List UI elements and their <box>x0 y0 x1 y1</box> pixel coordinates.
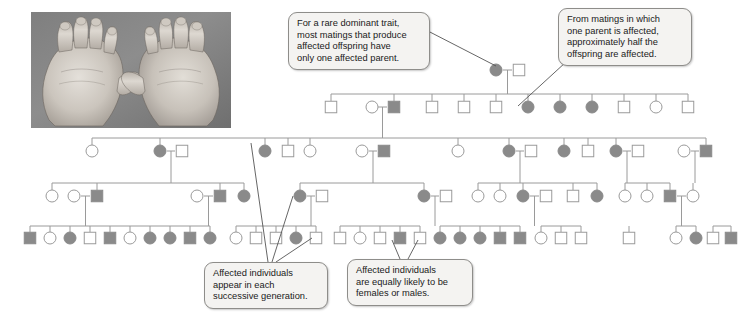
gen3-female-affected-1[interactable] <box>154 145 166 157</box>
gen2-female-spouse-1[interactable] <box>366 101 378 113</box>
gen5-male-unaffected-6[interactable] <box>374 232 386 244</box>
gen3-male-affected-2[interactable] <box>700 145 712 157</box>
callout-line: offspring are affected. <box>567 49 684 61</box>
gen5-female-affected-7[interactable] <box>454 232 466 244</box>
callout-line: females or males. <box>356 288 465 300</box>
gen3-male-spouse-1[interactable] <box>176 145 188 157</box>
gen1-male-unaffected[interactable] <box>513 64 525 76</box>
gen5-male-affected-4[interactable] <box>394 232 406 244</box>
gen3-male-spouse-3[interactable] <box>632 145 644 157</box>
gen5-male-unaffected-1[interactable] <box>84 232 96 244</box>
gen5-female-affected-9[interactable] <box>690 232 702 244</box>
callout-line: one parent is affected, <box>567 26 684 38</box>
gen3-female-affected-5[interactable] <box>610 145 622 157</box>
gen4-female-affected-4[interactable] <box>517 190 529 202</box>
gen5-male-unaffected-9[interactable] <box>575 232 587 244</box>
gen2-male-unaffected-3[interactable] <box>458 101 470 113</box>
gen3-female-unaffected-1[interactable] <box>86 145 98 157</box>
gen5-female-affected-6[interactable] <box>434 232 446 244</box>
gen2-male-unaffected-5[interactable] <box>618 101 630 113</box>
gen4-male-spouse-2[interactable] <box>440 190 452 202</box>
gen5-male-affected-7[interactable] <box>725 232 737 244</box>
gen5-male-affected-1[interactable] <box>24 232 36 244</box>
callout-line: successive generation. <box>213 291 320 303</box>
gen4-male-spouse-1[interactable] <box>316 190 328 202</box>
gen5-female-affected-4[interactable] <box>204 232 216 244</box>
callout-line: Affected individuals <box>356 265 465 277</box>
gen4-female-unaffected-5[interactable] <box>641 190 653 202</box>
leader-line <box>272 196 293 262</box>
gen2-male-affected-1[interactable] <box>388 101 400 113</box>
callout-line: appear in each <box>213 280 320 292</box>
gen4-female-affected-5[interactable] <box>591 190 603 202</box>
gen4-female-spouse-2[interactable] <box>191 190 203 202</box>
gen4-female-unaffected-4[interactable] <box>619 190 631 202</box>
leader-line <box>408 240 418 259</box>
gen3-female-unaffected-3[interactable] <box>452 145 464 157</box>
gen5-male-unaffected-5[interactable] <box>334 232 346 244</box>
gen5-male-unaffected-7[interactable] <box>414 232 426 244</box>
callout-line: most matings that produce <box>297 30 422 42</box>
gen2-female-affected-3[interactable] <box>586 101 598 113</box>
gen5-female-affected-5[interactable] <box>290 232 302 244</box>
gen4-female-unaffected-2[interactable] <box>472 190 484 202</box>
gen2-male-unaffected-6[interactable] <box>682 101 694 113</box>
callout-line: Affected individuals <box>213 268 320 280</box>
gen5-female-unaffected-3[interactable] <box>230 232 242 244</box>
callout-line: affected offspring have <box>297 41 422 53</box>
gen5-female-affected-2[interactable] <box>144 232 156 244</box>
gen4-male-unaffected-1[interactable] <box>567 190 579 202</box>
gen4-female-unaffected-6[interactable] <box>687 190 699 202</box>
gen4-female-affected-1[interactable] <box>238 190 250 202</box>
gen3-male-unaffected-1[interactable] <box>282 145 294 157</box>
gen4-female-unaffected-1[interactable] <box>46 190 58 202</box>
gen5-male-affected-5[interactable] <box>494 232 506 244</box>
gen5-male-unaffected-11[interactable] <box>707 232 719 244</box>
gen4-female-affected-2[interactable] <box>294 190 306 202</box>
gen4-male-affected-1[interactable] <box>91 190 103 202</box>
callout-rare-dominant-trait: For a rare dominant trait, most matings … <box>288 12 430 70</box>
gen3-female-unaffected-2[interactable] <box>304 145 316 157</box>
gen3-female-affected-4[interactable] <box>558 145 570 157</box>
gen4-male-spouse-3[interactable] <box>540 190 552 202</box>
gen5-female-unaffected-2[interactable] <box>124 232 136 244</box>
gen3-male-affected-1[interactable] <box>378 145 390 157</box>
gen4-female-spouse-1[interactable] <box>68 190 80 202</box>
gen5-female-unaffected-4[interactable] <box>354 232 366 244</box>
gen2-female-affected-1[interactable] <box>522 101 534 113</box>
gen5-male-unaffected-2[interactable] <box>250 232 262 244</box>
callout-line: For a rare dominant trait, <box>297 18 422 30</box>
gen2-male-unaffected-4[interactable] <box>490 101 502 113</box>
gen5-female-unaffected-6[interactable] <box>670 232 682 244</box>
leader-line <box>426 30 496 66</box>
gen5-male-affected-6[interactable] <box>514 232 526 244</box>
gen5-male-affected-2[interactable] <box>104 232 116 244</box>
gen4-female-unaffected-3[interactable] <box>494 190 506 202</box>
callout-line: From matings in which <box>567 14 684 26</box>
gen5-female-affected-3[interactable] <box>164 232 176 244</box>
pedigree-symbols <box>24 64 737 244</box>
gen5-female-affected-8[interactable] <box>474 232 486 244</box>
gen4-male-affected-2[interactable] <box>214 190 226 202</box>
gen4-female-affected-3[interactable] <box>418 190 430 202</box>
gen5-female-unaffected-1[interactable] <box>44 232 56 244</box>
gen4-male-affected-3[interactable] <box>664 190 676 202</box>
figure-root: For a rare dominant trait, most matings … <box>0 0 739 326</box>
gen3-male-unaffected-2[interactable] <box>582 145 594 157</box>
callout-successive-generations: Affected individuals appear in each succ… <box>204 262 328 309</box>
gen5-female-affected-1[interactable] <box>64 232 76 244</box>
gen3-female-affected-2[interactable] <box>259 145 271 157</box>
gen3-female-affected-3[interactable] <box>503 145 515 157</box>
gen5-male-unaffected-8[interactable] <box>555 232 567 244</box>
gen3-female-spouse-3[interactable] <box>678 145 690 157</box>
gen5-male-unaffected-10[interactable] <box>623 232 635 244</box>
gen5-male-affected-3[interactable] <box>184 232 196 244</box>
gen5-female-unaffected-5[interactable] <box>535 232 547 244</box>
callout-equally-likely-sex: Affected individuals are equally likely … <box>347 259 473 306</box>
gen3-male-spouse-2[interactable] <box>525 145 537 157</box>
gen3-female-spouse-2[interactable] <box>356 145 368 157</box>
gen2-female-unaffected-2[interactable] <box>650 101 662 113</box>
gen2-male-unaffected-1[interactable] <box>325 101 337 113</box>
gen2-female-affected-2[interactable] <box>554 101 566 113</box>
gen2-male-unaffected-2[interactable] <box>426 101 438 113</box>
